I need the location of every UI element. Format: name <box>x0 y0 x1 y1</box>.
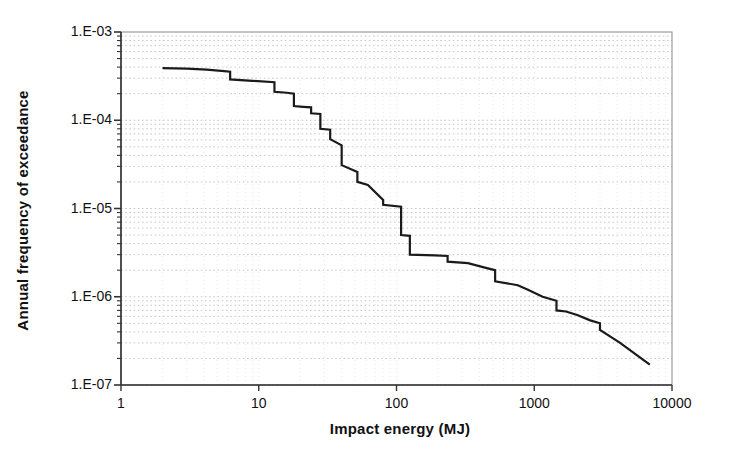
data-series-layer <box>162 68 649 365</box>
plot-area <box>0 0 731 461</box>
chart-figure: Annual frequency of exceedance Impact en… <box>0 0 731 461</box>
grid-layer <box>121 32 672 385</box>
axis-tick-marks <box>114 32 672 391</box>
series-line-0 <box>162 68 649 365</box>
